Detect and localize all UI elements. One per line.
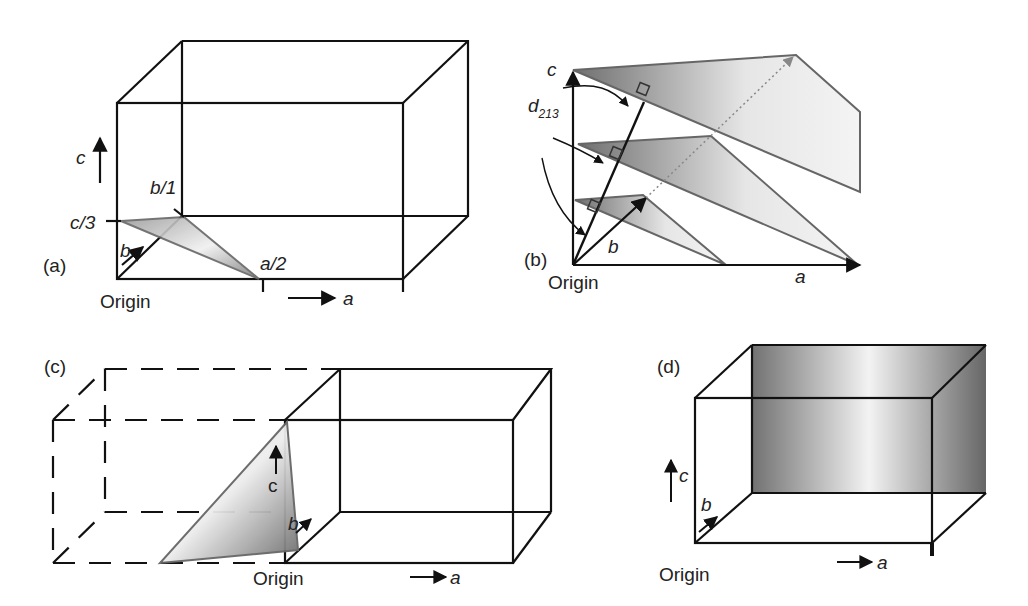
panel-b: c b a d213 (b) Origin [524,55,860,293]
panel-c: c b a (c) Origin [44,356,551,589]
c-axis-label: c [76,147,86,168]
c-axis-label-c: c [268,475,278,496]
c-intercept-label: c/3 [70,212,96,233]
b-axis-label-d: b [701,494,712,515]
panel-label-d: (d) [657,356,680,377]
b-intercept-label: b/1 [150,177,176,198]
panel-label-b: (b) [524,249,547,270]
b-axis-label-b: b [608,236,619,257]
origin-label-c: Origin [253,568,304,589]
panel-label-a: (a) [43,255,66,276]
a-axis-label-b: a [795,266,806,287]
c-axis-label-b: c [547,59,557,80]
miller-planes-figure: c b a c/3 b/1 a/2 (a) Origin c b a d213 [0,0,1028,606]
panel-label-c: (c) [44,356,66,377]
panel-a: c b a c/3 b/1 a/2 (a) Origin [43,41,468,312]
a-axis-label-c: a [450,567,461,588]
spacing-label: d213 [528,95,559,121]
b-axis-label: b [120,240,131,261]
b-axis-label-c: b [288,513,299,534]
a-axis-label: a [343,288,354,309]
origin-label-d: Origin [659,564,710,585]
panel-d: c b a (d) Origin [657,345,986,585]
c-axis-label-d: c [679,465,689,486]
plane-d [752,345,986,493]
spacing-subscript: 213 [538,107,559,121]
origin-label-b: Origin [548,272,599,293]
origin-label-a: Origin [100,291,151,312]
a-axis-label-d: a [877,552,888,573]
a-intercept-label: a/2 [260,253,287,274]
